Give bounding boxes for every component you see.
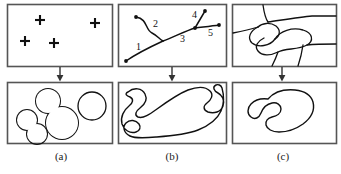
arrow-c: [279, 67, 286, 82]
arrow-a: [57, 67, 64, 82]
curve-endpoint-dot: [124, 59, 128, 63]
figure-container: 1 2 3 4 5: [0, 0, 341, 174]
curve-endpoint-dot: [203, 9, 207, 13]
curve-junction-dot: [193, 26, 197, 30]
arrow-head: [279, 75, 286, 82]
branch-label-1: 1: [136, 41, 141, 52]
arrow-group: [57, 67, 286, 82]
branch-label-3: 3: [180, 33, 185, 44]
curve-endpoint-dot: [217, 23, 221, 27]
arrow-b: [169, 67, 176, 82]
branch-label-2: 2: [153, 18, 158, 29]
panel-frame-c-top: [233, 5, 337, 67]
caption-c: (c): [263, 150, 303, 162]
caption-a: (a): [41, 150, 81, 162]
curve-endpoint-dot: [134, 15, 138, 19]
panel-frame-a-top: [8, 5, 113, 67]
branch-label-4: 4: [192, 9, 197, 20]
arrow-head: [169, 75, 176, 82]
figure-canvas: 1 2 3 4 5: [0, 0, 341, 174]
branch-label-5: 5: [208, 27, 213, 38]
merged-circle-blob: [0, 80, 120, 146]
caption-b: (b): [152, 150, 192, 162]
